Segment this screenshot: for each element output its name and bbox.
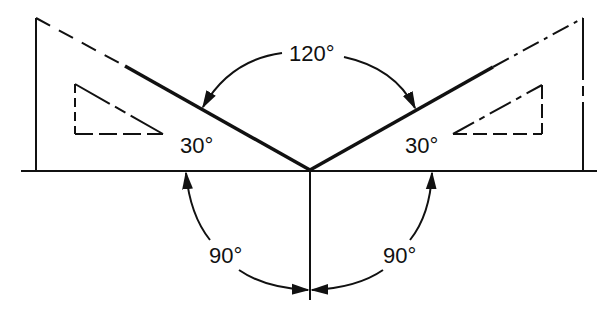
left-set-square <box>36 18 310 171</box>
arc-90-right-top <box>410 173 432 240</box>
label-90-right: 90° <box>383 243 416 268</box>
label-90-left: 90° <box>209 243 242 268</box>
arc-90-left-bottom <box>239 270 308 290</box>
arc-120 <box>203 53 282 107</box>
arc-90-right-bottom <box>312 270 383 290</box>
arc-120-right <box>344 57 415 108</box>
set-square-angle-diagram: 120° 30° 30° 90° 90° <box>0 0 608 317</box>
label-120: 120° <box>289 41 335 66</box>
right-set-square <box>310 18 583 171</box>
label-30-left: 30° <box>180 133 213 158</box>
label-30-right: 30° <box>405 133 438 158</box>
arc-90-left-top <box>186 173 210 240</box>
